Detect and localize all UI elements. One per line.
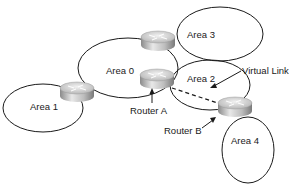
router-b-arrow <box>202 117 216 128</box>
virtual-link-label: Virtual Link <box>242 65 289 76</box>
area-2-label: Area 2 <box>187 73 215 84</box>
router-b-label: Router B <box>164 125 202 136</box>
router-a-label: Router A <box>130 105 168 116</box>
ospf-diagram: Area 0 Area 1 Area 3 Area 2 Area 4 Virtu… <box>0 0 289 185</box>
router-icon-area3 <box>141 31 175 51</box>
area-0-label: Area 0 <box>106 65 134 76</box>
router-a-icon <box>140 69 174 89</box>
area-4-boundary <box>222 117 274 183</box>
area-1-label: Area 1 <box>30 101 58 112</box>
router-icon-area1 <box>60 82 94 102</box>
router-a-arrow <box>150 88 155 103</box>
area-4-label: Area 4 <box>231 135 259 146</box>
area-3-label: Area 3 <box>187 29 215 40</box>
router-b-icon <box>218 97 252 117</box>
